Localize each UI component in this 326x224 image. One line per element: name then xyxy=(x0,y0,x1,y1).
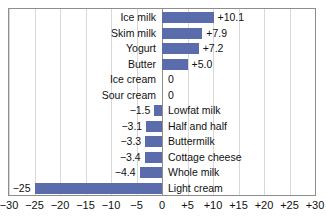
bar-value-label: −3.1 xyxy=(121,119,142,135)
bar xyxy=(145,136,162,147)
bar-category-label: Lowfat milk xyxy=(168,103,221,119)
bar-value-label: 0 xyxy=(168,88,174,104)
bar-category-label: Ice cream xyxy=(110,72,156,88)
x-tick-label: −10 xyxy=(102,198,121,212)
bar-chart: Ice milk+10.1Skim milk+7.9Yogurt+7.2Butt… xyxy=(0,0,326,224)
bar xyxy=(162,28,202,39)
bar-row: Lowfat milk−1.5 xyxy=(9,103,315,119)
bar-category-label: Ice milk xyxy=(120,10,156,26)
x-axis-tick-labels: −30−25−20−15−10−50+5+10+15+20+25+30 xyxy=(8,198,316,218)
gridline xyxy=(315,9,316,195)
bar-row: Light cream−25 xyxy=(9,181,315,197)
bar-row: Butter+5.0 xyxy=(9,57,315,73)
x-tick-label: −15 xyxy=(76,198,95,212)
x-tick-label: −5 xyxy=(130,198,143,212)
bar-rows: Ice milk+10.1Skim milk+7.9Yogurt+7.2Butt… xyxy=(9,9,315,195)
x-tick-label: −25 xyxy=(25,198,44,212)
bar xyxy=(146,121,162,132)
plot-area: Ice milk+10.1Skim milk+7.9Yogurt+7.2Butt… xyxy=(8,8,316,196)
bar-category-label: Sour cream xyxy=(102,88,156,104)
bar-row: Ice cream0 xyxy=(9,72,315,88)
bar-category-label: Cottage cheese xyxy=(168,150,242,166)
bar-value-label: −3.4 xyxy=(120,150,141,166)
bar-value-label: −3.3 xyxy=(120,134,141,150)
x-tick-label: −30 xyxy=(0,198,18,212)
bar-row: Whole milk−4.4 xyxy=(9,165,315,181)
x-tick-label: +20 xyxy=(255,198,274,212)
bar-value-label: +7.9 xyxy=(206,26,227,42)
bar-row: Ice milk+10.1 xyxy=(9,10,315,26)
bar-value-label: −25 xyxy=(13,181,31,197)
bar-category-label: Yogurt xyxy=(126,41,156,57)
bar xyxy=(35,183,163,194)
bar-value-label: +10.1 xyxy=(218,10,245,26)
x-tick-label: 0 xyxy=(159,198,165,212)
bar-row: Half and half−3.1 xyxy=(9,119,315,135)
bar xyxy=(162,43,199,54)
bar-row: Buttermilk−3.3 xyxy=(9,134,315,150)
bar-row: Cottage cheese−3.4 xyxy=(9,150,315,166)
x-tick-label: +5 xyxy=(181,198,194,212)
bar-value-label: −4.4 xyxy=(115,165,136,181)
x-tick-label: −20 xyxy=(51,198,70,212)
bar xyxy=(162,12,214,23)
bar xyxy=(154,105,162,116)
bar-category-label: Whole milk xyxy=(168,165,219,181)
bar-value-label: +7.2 xyxy=(203,41,224,57)
bar-category-label: Butter xyxy=(128,57,156,73)
bar-row: Sour cream0 xyxy=(9,88,315,104)
bar-category-label: Skim milk xyxy=(111,26,156,42)
bar xyxy=(140,167,162,178)
x-tick-label: +30 xyxy=(306,198,325,212)
x-tick-label: +25 xyxy=(280,198,299,212)
bar-value-label: 0 xyxy=(168,72,174,88)
x-tick-label: +10 xyxy=(204,198,223,212)
bar-row: Skim milk+7.9 xyxy=(9,26,315,42)
bar-value-label: +5.0 xyxy=(192,57,213,73)
bar-category-label: Buttermilk xyxy=(168,134,215,150)
bar xyxy=(162,59,188,70)
bar xyxy=(145,152,162,163)
bar-category-label: Half and half xyxy=(168,119,227,135)
x-tick-label: +15 xyxy=(229,198,248,212)
bar-category-label: Light cream xyxy=(168,181,223,197)
bar-value-label: −1.5 xyxy=(130,103,151,119)
bar-row: Yogurt+7.2 xyxy=(9,41,315,57)
